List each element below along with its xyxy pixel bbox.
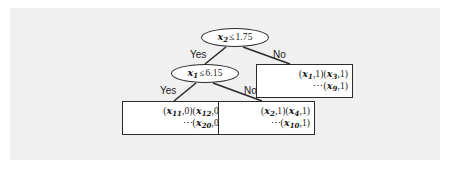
edge-label-root-yes: Yes — [190, 49, 206, 60]
split-threshold: 6.15 — [205, 68, 222, 78]
edge-label-split-no: No — [244, 85, 257, 96]
leaf-right-sub-1: 1 — [308, 72, 313, 81]
root-threshold: 1.75 — [235, 32, 252, 42]
leaf-mid-sub-1: 2 — [270, 109, 275, 118]
edge-split-yes-line — [174, 83, 196, 101]
leaf-mid-sub-2: 4 — [295, 109, 300, 118]
leaf-node-right[interactable]: (x1,1)(x3,1) ⋯(x9,1) — [256, 64, 353, 98]
leaf-left-sub-3: 20 — [202, 120, 212, 129]
leaf-node-left[interactable]: (x11,0)(x12,0) ⋯(x20,0) — [122, 101, 227, 135]
leaf-mid-sub-3: 10 — [290, 120, 300, 129]
leaf-right-sub-2: 3 — [333, 72, 338, 81]
root-decision-node[interactable]: x2≤1.75 — [201, 28, 269, 47]
split-node-condition: x1≤6.15 — [188, 67, 223, 80]
leaf-right-label-1: 1 — [315, 69, 320, 79]
leaf-mid-ellipsis: ⋯ — [271, 118, 281, 128]
leaf-right-line-1: (x1,1)(x3,1) — [299, 69, 348, 80]
leaf-right-line-2: ⋯(x9,1) — [313, 81, 348, 92]
leaf-mid-line-2: ⋯(x10,1) — [271, 118, 311, 129]
decision-tree-figure: x2≤1.75 x1≤6.15 (x1,1)(x3,1) ⋯(x9,1) (x1… — [0, 0, 455, 170]
leaf-mid-label-3: 1 — [302, 118, 307, 128]
leaf-right-label-2: 1 — [340, 69, 345, 79]
tree-edges-layer — [0, 0, 455, 170]
leaf-left-label-1: 0 — [184, 106, 189, 116]
leaf-left-line-2: ⋯(x20,0) — [183, 118, 223, 129]
leaf-left-sub-2: 12 — [202, 109, 212, 118]
edge-label-split-yes: Yes — [160, 85, 176, 96]
leaf-right-ellipsis: ⋯ — [313, 81, 323, 91]
leaf-mid-label-1: 1 — [277, 106, 282, 116]
edge-root-yes-line — [205, 47, 226, 64]
leaf-node-middle[interactable]: (x2,1)(x4,1) ⋯(x10,1) — [218, 101, 315, 135]
split-decision-node[interactable]: x1≤6.15 — [171, 64, 239, 83]
leaf-right-sub-3: 9 — [333, 83, 338, 92]
leaf-right-label-3: 1 — [340, 81, 345, 91]
leaf-left-line-1: (x11,0)(x12,0) — [163, 106, 222, 117]
leaf-left-sub-1: 11 — [172, 109, 182, 118]
leaf-mid-label-2: 1 — [302, 106, 307, 116]
edge-label-root-no: No — [273, 49, 286, 60]
root-node-condition: x2≤1.75 — [218, 31, 253, 44]
leaf-left-ellipsis: ⋯ — [183, 118, 193, 128]
